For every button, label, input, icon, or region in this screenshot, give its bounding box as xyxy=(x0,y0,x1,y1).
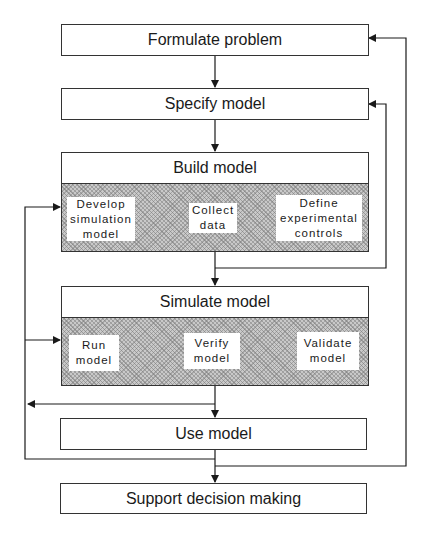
activity-collect-data: Collect data xyxy=(189,203,237,233)
step-formulate-problem-label: Formulate problem xyxy=(148,31,282,49)
simulate-model-activities-panel: Run model Verify model Validate model xyxy=(62,318,368,385)
step-use-model-label: Use model xyxy=(175,425,251,443)
activity-define-experimental-controls: Define experimental controls xyxy=(276,195,362,241)
build-model-activities-panel: Develop simulation model Collect data De… xyxy=(62,184,368,251)
step-support-decision-making-label: Support decision making xyxy=(126,490,301,508)
activity-develop-simulation-model: Develop simulation model xyxy=(67,197,135,241)
activity-validate-model: Validate model xyxy=(297,332,359,370)
step-use-model: Use model xyxy=(60,418,367,450)
step-specify-model: Specify model xyxy=(61,88,369,120)
step-build-model-title: Build model xyxy=(62,153,368,184)
step-support-decision-making: Support decision making xyxy=(60,483,367,514)
step-simulate-model-title: Simulate model xyxy=(62,287,368,318)
step-build-model: Build model Develop simulation model Col… xyxy=(61,152,369,252)
step-formulate-problem: Formulate problem xyxy=(61,24,369,56)
activity-run-model: Run model xyxy=(69,335,119,371)
step-specify-model-label: Specify model xyxy=(165,95,266,113)
connector-layer xyxy=(0,0,426,538)
step-simulate-model: Simulate model Run model Verify model Va… xyxy=(61,286,369,386)
activity-verify-model: Verify model xyxy=(184,333,240,369)
